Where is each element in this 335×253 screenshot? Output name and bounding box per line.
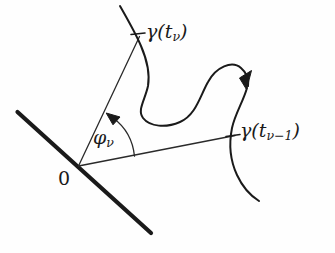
thick-line-through-origin	[18, 112, 152, 233]
label-gamma-t-nu: γ(tν)	[146, 22, 187, 43]
label-gamma-t-nu-subscript: ν	[172, 29, 180, 44]
label-phi-nu-subscript: ν	[106, 135, 114, 150]
label-gamma-t-nu-minus-1-base: γ(t	[240, 119, 266, 141]
angle-arc	[114, 118, 135, 156]
label-gamma-t-nu-base: γ(t	[146, 20, 172, 42]
label-gamma-t-nu-minus-1-close: )	[293, 119, 300, 141]
angle-arc-arrowhead-icon	[106, 113, 120, 125]
label-origin: 0	[58, 169, 70, 188]
label-gamma-t-nu-close: )	[180, 20, 187, 42]
tick-mark-current-point	[131, 33, 145, 35]
figure-canvas: γ(tν) γ(tν−1) φν 0	[0, 0, 335, 253]
label-phi-nu: φν	[93, 128, 114, 149]
tick-mark-previous-point	[226, 135, 240, 137]
label-phi-nu-base: φ	[93, 126, 106, 148]
curve-gamma-lower	[230, 88, 259, 201]
label-gamma-t-nu-minus-1: γ(tν−1)	[240, 121, 300, 142]
label-gamma-t-nu-minus-1-subscript: ν−1	[266, 128, 292, 143]
